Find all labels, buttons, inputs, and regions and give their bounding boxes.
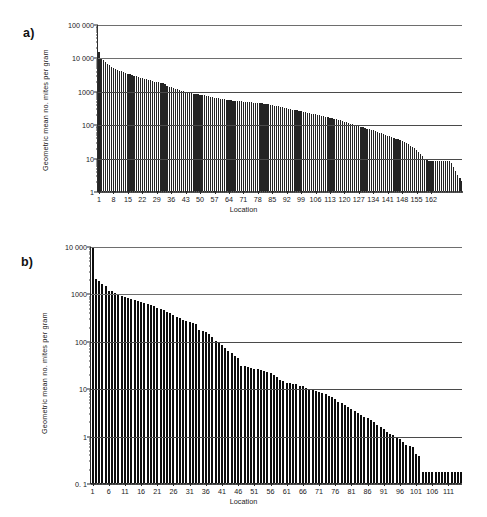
x-minor-tick — [309, 191, 310, 193]
x-minor-tick — [219, 483, 220, 485]
bar — [199, 95, 200, 191]
x-minor-tick — [396, 191, 397, 193]
bar — [432, 161, 433, 191]
x-minor-tick — [436, 483, 437, 485]
bar — [302, 386, 304, 483]
bar — [224, 99, 225, 191]
x-minor-tick — [180, 483, 181, 485]
bar — [243, 102, 244, 191]
y-minor-tick — [96, 81, 98, 82]
x-minor-tick — [429, 483, 430, 485]
x-minor-tick — [306, 483, 307, 485]
bar — [156, 82, 157, 191]
x-tick-mark — [400, 483, 401, 486]
x-tick-mark — [243, 191, 244, 194]
x-minor-tick — [196, 191, 197, 193]
x-tick-label: 66 — [299, 487, 307, 496]
bar — [143, 303, 145, 483]
x-minor-tick — [445, 191, 446, 193]
x-minor-tick — [421, 191, 422, 193]
x-minor-tick — [433, 191, 434, 193]
bar — [183, 91, 184, 191]
bar — [321, 393, 323, 483]
x-minor-tick — [381, 483, 382, 485]
x-minor-tick — [161, 483, 162, 485]
x-minor-tick — [460, 191, 461, 193]
bar — [428, 161, 429, 191]
x-minor-tick — [232, 483, 233, 485]
bar — [257, 369, 259, 483]
x-minor-tick — [332, 483, 333, 485]
bar — [415, 454, 417, 483]
bar — [284, 108, 285, 191]
x-tick-mark — [190, 483, 191, 486]
bar — [198, 330, 200, 483]
x-tick-mark — [330, 191, 331, 194]
x-tick-mark — [171, 191, 172, 194]
y-minor-tick — [89, 461, 91, 462]
x-tick-label: 141 — [382, 195, 394, 204]
x-minor-tick — [361, 483, 362, 485]
bar — [447, 161, 448, 191]
bar — [276, 106, 277, 191]
x-tick-mark — [272, 191, 273, 194]
x-minor-tick — [184, 191, 185, 193]
bar — [162, 83, 163, 191]
y-minor-tick — [89, 469, 91, 470]
x-minor-tick — [328, 191, 329, 193]
x-minor-tick — [290, 483, 291, 485]
x-minor-tick — [397, 483, 398, 485]
bar — [397, 139, 398, 191]
x-minor-tick — [297, 191, 298, 193]
bar — [325, 394, 327, 483]
x-tick-mark — [287, 483, 288, 486]
x-minor-tick — [126, 191, 127, 193]
bar — [215, 341, 217, 483]
x-minor-tick — [131, 483, 132, 485]
bar — [461, 181, 462, 191]
panel-b-plot-area: 0. 1110100100010 00016111621263136414651… — [90, 247, 462, 484]
bar — [251, 102, 252, 191]
x-minor-tick — [144, 483, 145, 485]
x-minor-tick — [386, 191, 387, 193]
bar — [371, 130, 372, 191]
x-tick-label: 46 — [234, 487, 242, 496]
x-minor-tick — [289, 191, 290, 193]
x-tick-mark — [319, 483, 320, 486]
x-minor-tick — [241, 191, 242, 193]
y-minor-tick — [89, 271, 91, 272]
bar — [328, 396, 330, 483]
bar — [137, 301, 139, 483]
bar — [341, 403, 343, 483]
bar — [101, 284, 103, 483]
x-tick-label: 51 — [250, 487, 258, 496]
gridline — [91, 247, 462, 248]
bar — [418, 456, 420, 483]
bar — [261, 103, 262, 191]
bar — [160, 309, 162, 483]
y-minor-tick — [96, 160, 98, 161]
bar — [437, 161, 438, 191]
x-minor-tick — [448, 191, 449, 193]
bar — [205, 332, 207, 483]
x-minor-tick — [435, 191, 436, 193]
bar — [443, 161, 444, 191]
x-tick-mark — [200, 191, 201, 194]
x-minor-tick — [225, 191, 226, 193]
x-tick-label: 134 — [367, 195, 379, 204]
bar — [337, 402, 339, 483]
bar — [127, 298, 129, 483]
x-tick-label: 22 — [138, 195, 146, 204]
bar — [234, 101, 235, 191]
x-minor-tick — [346, 191, 347, 193]
bar — [422, 156, 423, 191]
x-minor-tick — [348, 483, 349, 485]
x-minor-tick — [212, 483, 213, 485]
bar — [294, 110, 295, 191]
x-minor-tick — [192, 191, 193, 193]
bar — [386, 432, 388, 483]
y-minor-tick — [89, 343, 91, 344]
y-minor-tick — [96, 171, 98, 172]
bar — [338, 120, 339, 191]
bar — [392, 435, 394, 483]
